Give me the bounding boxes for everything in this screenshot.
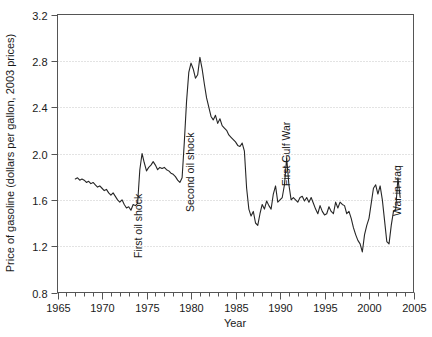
y-axis-tick-label: 1.6 [32,195,47,207]
x-axis-tick-label: 1975 [135,302,159,314]
y-axis-tick-label: 3.2 [32,10,47,22]
x-axis-tick-label: 1980 [179,302,203,314]
x-axis-tick-label: 1985 [224,302,248,314]
gasoline-price-figure: 0.81.21.62.02.42.83.2 196519701975198019… [0,0,432,337]
x-axis-tick-labels: 196519701975198019851990199520002005 [46,302,426,314]
figure-background [0,0,432,337]
annotation-label: First Gulf War [280,121,292,186]
x-axis-tick-label: 2005 [402,302,426,314]
y-axis-tick-label: 2.0 [32,149,47,161]
x-axis-tick-label: 1965 [46,302,70,314]
y-axis-tick-label: 0.8 [32,288,47,300]
y-axis-tick-label: 1.2 [32,241,47,253]
x-axis-tick-label: 1995 [313,302,337,314]
x-axis-tick-label: 1990 [268,302,292,314]
annotation-label: War in Iraq [391,165,403,216]
y-axis-title: Price of gasoline (dollars per gallon, 2… [4,34,16,272]
x-axis-title: Year [224,317,247,329]
annotation-label: First oil shock [132,193,144,258]
x-axis-tick-label: 1970 [90,302,114,314]
annotation-label: Second oil shock [184,132,196,212]
y-axis-tick-label: 2.8 [32,56,47,68]
chart-canvas: 0.81.21.62.02.42.83.2 196519701975198019… [0,0,432,337]
y-axis-tick-label: 2.4 [32,102,47,114]
x-axis-tick-label: 2000 [357,302,381,314]
